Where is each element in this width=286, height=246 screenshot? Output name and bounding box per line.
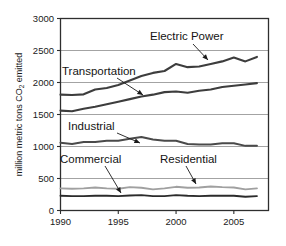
y-tick-label: 1500 bbox=[33, 109, 54, 120]
y-tick-label: 2000 bbox=[33, 77, 54, 88]
series-label-transportation: Transportation bbox=[62, 65, 136, 77]
x-tick-label: 1990 bbox=[50, 216, 71, 227]
y-tick-label: 500 bbox=[38, 173, 54, 184]
y-axis-title: million metric tons CO2 emitted bbox=[14, 53, 25, 177]
chart-canvas: 300025002000150010005000 199019952000200… bbox=[0, 0, 286, 246]
y-axis-title-text: million metric tons CO2 emitted bbox=[14, 53, 25, 177]
y-axis-title-tail: emitted bbox=[14, 53, 24, 85]
chart-background bbox=[0, 0, 286, 246]
y-tick-label: 3000 bbox=[33, 13, 54, 24]
series-label-electric-power: Electric Power bbox=[150, 30, 224, 42]
co2-emissions-line-chart: 300025002000150010005000 199019952000200… bbox=[0, 0, 286, 246]
x-tick-label: 2000 bbox=[165, 216, 186, 227]
series-label-commercial: Commercial bbox=[60, 153, 121, 165]
y-tick-label: 0 bbox=[49, 205, 54, 216]
y-tick-label: 2500 bbox=[33, 45, 54, 56]
x-tick-label: 1995 bbox=[108, 216, 129, 227]
x-tick-label: 2005 bbox=[223, 216, 244, 227]
y-axis-title-main: million metric tons CO bbox=[14, 88, 24, 176]
series-label-residential: Residential bbox=[160, 153, 217, 165]
series-label-industrial: Industrial bbox=[68, 120, 115, 132]
series-line-commercial bbox=[61, 195, 257, 197]
y-tick-label: 1000 bbox=[33, 141, 54, 152]
